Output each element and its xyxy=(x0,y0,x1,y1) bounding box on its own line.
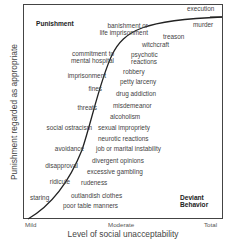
label-imprisonment: imprisonment xyxy=(50,72,106,79)
x-axis-label: Level of social unacceptability xyxy=(23,229,223,239)
label-treason: treason xyxy=(163,33,184,40)
label-alcoholism: alcoholism xyxy=(110,113,140,120)
label-sexual-impropriety: sexual impropriety xyxy=(98,124,150,131)
label-excessive-gambling: excessive gambling xyxy=(87,168,143,175)
label-avoidance: avoidance xyxy=(40,145,84,152)
label-fines: fines xyxy=(60,85,102,92)
label-disapproval: disapproval xyxy=(30,162,78,169)
label-execution: execution xyxy=(187,5,214,12)
label-outlandish-clothes: outlandish clothes xyxy=(71,192,122,199)
label-text: life imprisonment xyxy=(76,29,148,36)
label-text: reactions xyxy=(131,58,158,65)
punishment-header: Punishment xyxy=(36,20,74,27)
label-petty-larceny: petty larceny xyxy=(120,78,156,85)
label-murder: murder xyxy=(193,21,213,28)
x-tick-mild: Mild xyxy=(25,221,36,228)
label-text: Behavior xyxy=(180,201,208,208)
label-text: mental hospital xyxy=(56,57,114,64)
label-ridicule: ridicule xyxy=(30,178,70,185)
x-tick-total: Total xyxy=(204,221,217,228)
label-text: commitment to xyxy=(56,50,114,57)
label-robbery: robbery xyxy=(123,68,145,75)
label-witchcraft: witchcraft xyxy=(142,41,169,48)
x-tick-moderate: Moderate xyxy=(108,221,134,228)
label-poor-table-manners: poor table manners xyxy=(63,202,118,209)
label-threats: threats xyxy=(60,104,97,111)
label-text: Deviant xyxy=(180,194,208,201)
label-text: psychotic xyxy=(131,51,158,58)
deviant-behavior-label: Deviant Behavior xyxy=(180,194,208,208)
label-social-ostracism: social ostracism xyxy=(28,124,92,131)
label-drug-addiction: drug addiction xyxy=(116,90,156,97)
label-misdemeanor: misdemeanor xyxy=(113,102,152,109)
label-commitment: commitment to mental hospital xyxy=(56,50,114,64)
label-staring: staring xyxy=(30,194,49,201)
label-job-marital-instability: job or marital instability xyxy=(96,145,161,152)
label-banishment: banishment or life imprisonment xyxy=(76,22,148,36)
label-rudeness: rudeness xyxy=(81,179,107,186)
label-text: banishment or xyxy=(76,22,148,29)
label-psychotic-reactions: psychotic reactions xyxy=(131,51,158,65)
label-neurotic-reactions: neurotic reactions xyxy=(98,135,148,142)
label-divergent-opinions: divergent opinions xyxy=(92,157,144,164)
y-axis-label: Punishment regarded as appropriate xyxy=(9,32,19,192)
